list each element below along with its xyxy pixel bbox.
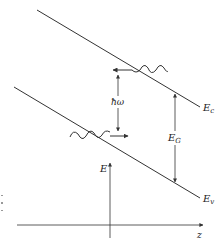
- conduction-band-label: Ec: [202, 102, 214, 115]
- photon-wave-lower: [70, 131, 128, 139]
- position-axis-label: z: [196, 230, 202, 240]
- cropped-text-fragments: [1, 195, 3, 211]
- photon-energy-label: ħω: [111, 97, 125, 107]
- energy-axis-label: E: [99, 163, 108, 174]
- band-diagram: Ec Ev ħω EG E z: [0, 0, 222, 241]
- valence-band-label: Ev: [202, 193, 214, 206]
- conduction-band-line: [37, 10, 200, 107]
